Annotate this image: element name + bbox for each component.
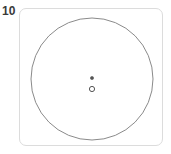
figure-card[interactable] bbox=[19, 8, 163, 146]
center-ring-marker bbox=[89, 86, 94, 91]
center-dot-marker bbox=[90, 76, 93, 79]
figure-index-label: 10 bbox=[2, 4, 16, 18]
figure-canvas bbox=[20, 9, 163, 146]
figure-stage: 10 bbox=[0, 0, 171, 154]
